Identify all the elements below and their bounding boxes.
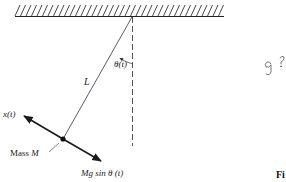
displacement-arrow <box>24 116 63 139</box>
figure-caption-fragment: Fi <box>276 170 285 180</box>
ceiling-hatching <box>15 5 224 16</box>
length-label: L <box>84 77 90 87</box>
mass-label: Mass M <box>10 149 39 158</box>
force-arrow <box>63 139 101 161</box>
diagram-svg <box>0 0 286 182</box>
mass-symbol: M <box>31 148 39 158</box>
handwritten-note <box>265 56 284 74</box>
pendulum-string <box>63 17 132 139</box>
force-label: Mg sin θ (t) <box>81 169 123 178</box>
mass-point <box>60 136 65 141</box>
mass-label-prefix: Mass <box>10 148 31 158</box>
displacement-label: x(t) <box>3 110 16 119</box>
pendulum-diagram: L θ(t) x(t) Mass M Mg sin θ (t) Fi <box>0 0 286 182</box>
mass-leader-line <box>49 143 59 152</box>
angle-label: θ(t) <box>114 60 127 69</box>
